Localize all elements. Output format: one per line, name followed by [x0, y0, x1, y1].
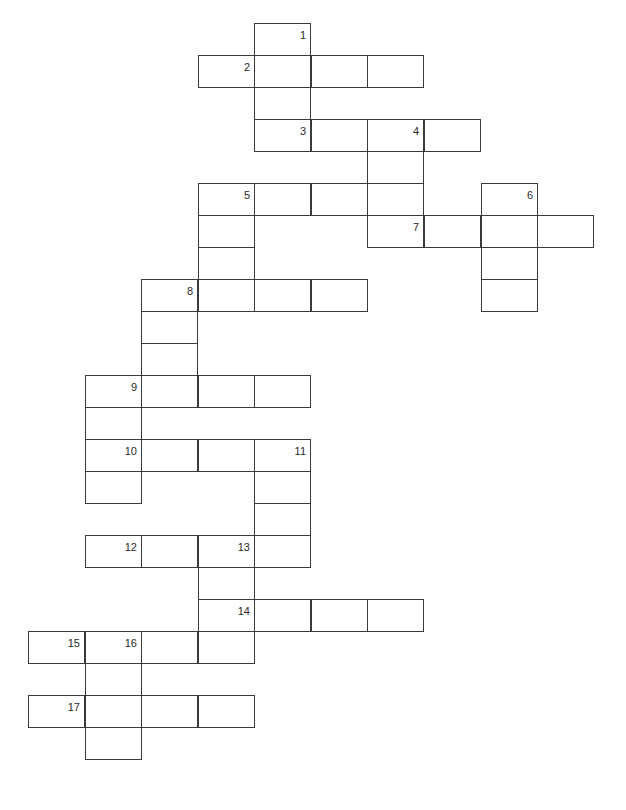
- crossword-cell[interactable]: [198, 695, 255, 728]
- crossword-cell[interactable]: [481, 247, 538, 280]
- crossword-cell[interactable]: [254, 471, 311, 504]
- crossword-cell[interactable]: [367, 151, 424, 184]
- crossword-grid: 1234567891011121314151617: [0, 0, 626, 810]
- crossword-cell[interactable]: [254, 375, 311, 408]
- crossword-cell-10[interactable]: 10: [85, 439, 142, 472]
- clue-number: 10: [125, 445, 137, 457]
- crossword-cell[interactable]: [311, 183, 368, 216]
- crossword-cell[interactable]: [254, 183, 311, 216]
- crossword-cell[interactable]: [141, 343, 198, 376]
- crossword-cell[interactable]: [254, 599, 311, 632]
- crossword-cell[interactable]: [85, 695, 142, 728]
- clue-number: 17: [68, 701, 80, 713]
- crossword-cell-8[interactable]: 8: [141, 279, 198, 312]
- crossword-cell[interactable]: [198, 215, 255, 248]
- crossword-cell[interactable]: [254, 535, 311, 568]
- crossword-cell[interactable]: [198, 279, 255, 312]
- clue-number: 7: [413, 221, 419, 233]
- clue-number: 14: [238, 605, 250, 617]
- clue-number: 8: [187, 285, 193, 297]
- crossword-cell[interactable]: [198, 247, 255, 280]
- crossword-cell[interactable]: [85, 663, 142, 696]
- crossword-cell[interactable]: [481, 215, 538, 248]
- clue-number: 16: [125, 637, 137, 649]
- crossword-cell-17[interactable]: 17: [28, 695, 85, 728]
- crossword-cell-12[interactable]: 12: [85, 535, 142, 568]
- crossword-cell-7[interactable]: 7: [367, 215, 424, 248]
- clue-number: 5: [244, 189, 250, 201]
- crossword-cell[interactable]: [424, 119, 481, 152]
- crossword-cell[interactable]: [311, 55, 368, 88]
- crossword-cell-15[interactable]: 15: [28, 631, 85, 664]
- clue-number: 9: [131, 381, 137, 393]
- crossword-cell[interactable]: [85, 407, 142, 440]
- crossword-cell-6[interactable]: 6: [481, 183, 538, 216]
- clue-number: 12: [125, 541, 137, 553]
- clue-number: 11: [295, 445, 306, 457]
- clue-number: 2: [244, 61, 250, 73]
- crossword-cell[interactable]: [311, 599, 368, 632]
- clue-number: 4: [413, 125, 419, 137]
- crossword-cell[interactable]: [141, 695, 198, 728]
- clue-number: 13: [238, 541, 250, 553]
- crossword-cell-14[interactable]: 14: [198, 599, 255, 632]
- clue-number: 3: [300, 125, 306, 137]
- crossword-cell[interactable]: [311, 119, 368, 152]
- crossword-cell[interactable]: [424, 215, 481, 248]
- crossword-cell[interactable]: [367, 183, 424, 216]
- crossword-cell[interactable]: [198, 375, 255, 408]
- crossword-cell[interactable]: [141, 375, 198, 408]
- crossword-cell[interactable]: [254, 87, 311, 120]
- crossword-cell[interactable]: [254, 279, 311, 312]
- crossword-cell-13[interactable]: 13: [198, 535, 255, 568]
- crossword-cell[interactable]: [198, 439, 255, 472]
- crossword-cell-4[interactable]: 4: [367, 119, 424, 152]
- crossword-cell[interactable]: [141, 535, 198, 568]
- crossword-cell[interactable]: [198, 567, 255, 600]
- crossword-cell[interactable]: [85, 727, 142, 760]
- crossword-cell[interactable]: [367, 55, 424, 88]
- crossword-cell[interactable]: [198, 631, 255, 664]
- crossword-cell-3[interactable]: 3: [254, 119, 311, 152]
- crossword-cell[interactable]: [537, 215, 594, 248]
- clue-number: 1: [300, 29, 306, 41]
- crossword-cell[interactable]: [311, 279, 368, 312]
- crossword-cell[interactable]: [254, 55, 311, 88]
- clue-number: 15: [68, 637, 80, 649]
- crossword-cell-2[interactable]: 2: [198, 55, 255, 88]
- crossword-cell[interactable]: [367, 599, 424, 632]
- crossword-cell-5[interactable]: 5: [198, 183, 255, 216]
- clue-number: 6: [527, 189, 533, 201]
- crossword-cell-11[interactable]: 11: [254, 439, 311, 472]
- crossword-cell[interactable]: [481, 279, 538, 312]
- crossword-cell[interactable]: [254, 503, 311, 536]
- crossword-cell[interactable]: [141, 311, 198, 344]
- crossword-cell-1[interactable]: 1: [254, 23, 311, 56]
- crossword-cell[interactable]: [141, 631, 198, 664]
- crossword-cell[interactable]: [85, 471, 142, 504]
- crossword-cell-9[interactable]: 9: [85, 375, 142, 408]
- crossword-cell[interactable]: [141, 439, 198, 472]
- crossword-cell-16[interactable]: 16: [85, 631, 142, 664]
